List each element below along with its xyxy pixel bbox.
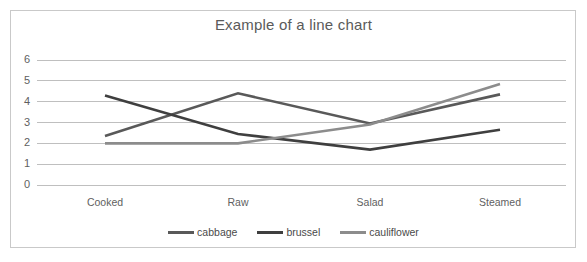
y-tick-label: 4 [10,95,30,107]
legend-entry-brussel[interactable]: brussel [257,226,320,238]
chart-legend: cabbagebrusselcauliflower [0,226,587,238]
legend-label: cauliflower [369,226,419,238]
legend-swatch-cabbage [168,231,194,234]
legend-entry-cabbage[interactable]: cabbage [168,226,237,238]
line-chart-figure: Example of a line chart 0123456 CookedRa… [0,0,587,262]
series-line-cabbage [105,93,500,136]
x-tick-label-salad: Salad [320,196,420,208]
y-tick-label: 2 [10,136,30,148]
plot-area [0,0,587,262]
legend-entry-cauliflower[interactable]: cauliflower [340,226,419,238]
gridlines [37,60,566,185]
y-tick-label: 3 [10,116,30,128]
y-tick-label: 5 [10,74,30,86]
legend-swatch-brussel [257,231,283,234]
legend-label: brussel [286,226,320,238]
x-tick-label-raw: Raw [188,196,288,208]
legend-label: cabbage [197,226,237,238]
y-tick-label: 1 [10,157,30,169]
series-lines [105,84,500,150]
y-tick-label: 0 [10,178,30,190]
x-tick-label-steamed: Steamed [450,196,550,208]
x-tick-label-cooked: Cooked [55,196,155,208]
y-tick-label: 6 [10,53,30,65]
legend-swatch-cauliflower [340,231,366,234]
